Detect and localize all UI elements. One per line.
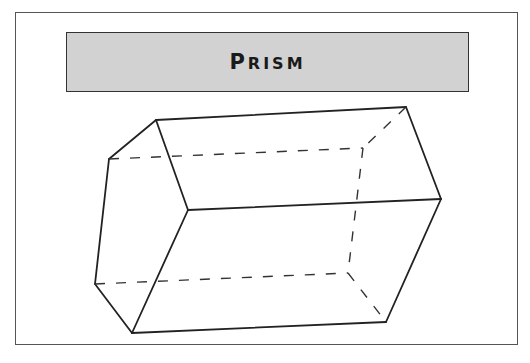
visible-edge [132,210,188,333]
hidden-edge [109,148,363,159]
visible-edge [156,120,188,210]
hidden-edge [363,107,406,148]
hidden-edges [95,107,406,322]
hidden-edge [95,273,348,284]
visible-edge [386,199,441,322]
visible-edge [406,107,441,199]
visible-edge [188,199,441,210]
visible-edge [109,120,156,159]
prism-diagram [0,0,530,363]
visible-edge [132,322,386,333]
hidden-edge [348,273,386,322]
hidden-edge [348,148,363,273]
visible-edge [95,159,109,284]
visible-edge [95,284,132,333]
visible-edge [156,107,406,120]
visible-edges [95,107,441,333]
